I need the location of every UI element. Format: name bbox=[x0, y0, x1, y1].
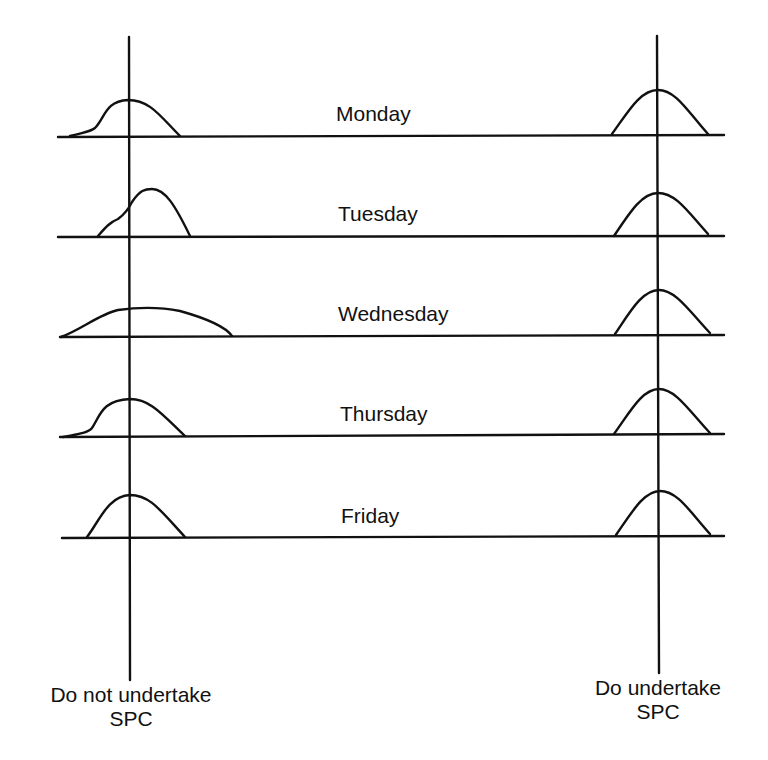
baseline-thursday bbox=[60, 434, 724, 437]
baseline-friday bbox=[62, 536, 724, 538]
right-curve-thursday bbox=[614, 389, 710, 434]
left-curve-tuesday bbox=[98, 189, 190, 236]
left-axis-label-line2: SPC bbox=[31, 707, 231, 731]
right-axis-label: Do undertake SPC bbox=[578, 676, 738, 724]
baseline-tuesday bbox=[58, 236, 724, 237]
right-axis-label-line1: Do undertake bbox=[578, 676, 738, 700]
left-curve-wednesday bbox=[61, 308, 232, 337]
baseline-wednesday bbox=[60, 335, 724, 337]
right-vertical-axis bbox=[657, 36, 659, 673]
left-axis-label: Do not undertake SPC bbox=[31, 683, 231, 731]
left-curve-monday bbox=[70, 100, 180, 136]
day-label-thursday: Thursday bbox=[340, 402, 428, 426]
day-label-wednesday: Wednesday bbox=[338, 302, 449, 326]
right-curve-wednesday bbox=[615, 290, 710, 334]
left-curve-thursday bbox=[63, 399, 185, 437]
right-curve-tuesday bbox=[614, 193, 708, 236]
day-label-friday: Friday bbox=[341, 504, 399, 528]
left-vertical-axis bbox=[129, 37, 130, 680]
baseline-monday bbox=[58, 135, 724, 137]
right-curve-monday bbox=[612, 90, 708, 134]
day-label-monday: Monday bbox=[336, 102, 411, 126]
left-axis-label-line1: Do not undertake bbox=[31, 683, 231, 707]
right-axis-label-line2: SPC bbox=[578, 700, 738, 724]
day-label-tuesday: Tuesday bbox=[338, 202, 418, 226]
left-curve-friday bbox=[87, 495, 185, 537]
right-curve-friday bbox=[616, 491, 710, 535]
